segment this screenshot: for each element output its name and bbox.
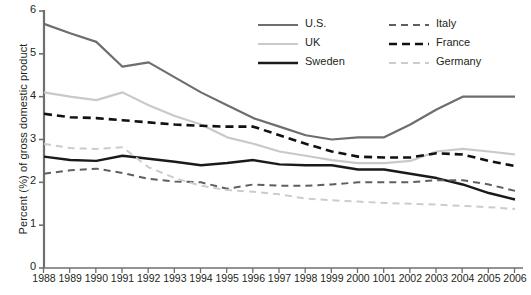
y-tick-label: 3 bbox=[16, 132, 36, 144]
y-tick-label: 6 bbox=[16, 3, 36, 15]
legend-item-france: France bbox=[389, 36, 520, 48]
legend-item-germany: Germany bbox=[389, 55, 520, 67]
chart-legend: U.S.ItalyUKFranceSwedenGermany bbox=[258, 13, 520, 70]
legend-label: Sweden bbox=[305, 55, 345, 67]
legend-item-italy: Italy bbox=[389, 17, 520, 29]
legend-swatch-icon bbox=[389, 17, 429, 29]
y-tick-label: 1 bbox=[16, 217, 36, 229]
y-tick-label: 0 bbox=[16, 260, 36, 272]
legend-row: U.S.Italy bbox=[258, 13, 520, 32]
legend-label: UK bbox=[305, 36, 320, 48]
legend-swatch-icon bbox=[258, 55, 298, 67]
legend-swatch-icon bbox=[258, 17, 298, 29]
legend-item-us: U.S. bbox=[258, 17, 389, 29]
legend-label: France bbox=[436, 36, 470, 48]
x-tick-label: 2006 bbox=[499, 272, 531, 284]
legend-swatch-icon bbox=[389, 55, 429, 67]
legend-item-sweden: Sweden bbox=[258, 55, 389, 67]
legend-label: Italy bbox=[436, 17, 456, 29]
legend-label: Germany bbox=[436, 55, 481, 67]
series-line-sweden bbox=[44, 156, 515, 200]
legend-swatch-icon bbox=[258, 36, 298, 48]
y-tick-label: 4 bbox=[16, 89, 36, 101]
legend-label: U.S. bbox=[305, 17, 326, 29]
legend-item-uk: UK bbox=[258, 36, 389, 48]
y-tick-label: 2 bbox=[16, 174, 36, 186]
legend-row: SwedenGermany bbox=[258, 51, 520, 70]
legend-row: UKFrance bbox=[258, 32, 520, 51]
legend-swatch-icon bbox=[389, 36, 429, 48]
y-tick-label: 5 bbox=[16, 46, 36, 58]
